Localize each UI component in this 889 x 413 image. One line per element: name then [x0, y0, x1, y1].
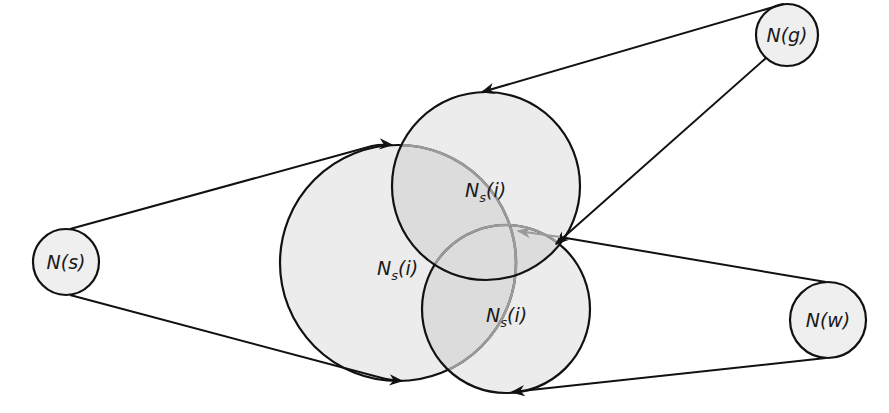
edge-w-top [560, 237, 826, 282]
edge-g-top [482, 4, 784, 92]
neighborhood-fills [280, 92, 590, 393]
node-w: N(w) [790, 282, 866, 358]
node-w-label: N(w) [806, 309, 851, 331]
node-s: N(s) [33, 229, 99, 295]
edge-g-intersection [556, 58, 766, 244]
node-g-label: N(g) [766, 24, 807, 46]
node-s-label: N(s) [47, 251, 86, 273]
neighborhood-diagram: N(s) N(g) N(w) Ns(i) Ns(i) Ns(i) [0, 0, 889, 413]
node-g: N(g) [756, 4, 818, 66]
